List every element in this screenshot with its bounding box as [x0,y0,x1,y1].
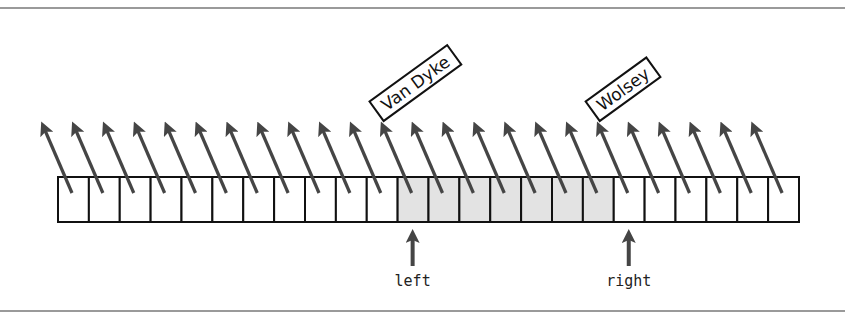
array-cell [459,177,490,222]
name-labels: Van DykeWolsey [370,45,661,121]
array-cell [706,177,737,222]
array-cell [521,177,552,222]
name-tag-wolsey: Wolsey [586,57,661,121]
array-cell [768,177,799,222]
name-tag-van-dyke: Van Dyke [370,45,462,121]
array-cell [367,177,398,222]
array-cell [89,177,120,222]
array-cell [614,177,645,222]
array-diagram: Van DykeWolsey leftright [0,0,845,319]
name-tag-text: Van Dyke [377,52,453,115]
pointer-label-left: left [395,272,431,290]
array-cell [212,177,243,222]
array-cell [490,177,521,222]
array-cell [336,177,367,222]
array-cells [58,177,799,222]
array-cell [182,177,213,222]
array-cell [398,177,429,222]
array-cell [243,177,274,222]
array-cell [429,177,460,222]
array-cell [120,177,151,222]
pointer-label-right: right [606,272,651,290]
array-cell [151,177,182,222]
array-cell [58,177,89,222]
array-cell [583,177,614,222]
array-cell [676,177,707,222]
index-pointers: leftright [395,236,652,290]
array-cell [645,177,676,222]
array-cell [305,177,336,222]
array-cell [737,177,768,222]
array-cell [552,177,583,222]
array-cell [274,177,305,222]
